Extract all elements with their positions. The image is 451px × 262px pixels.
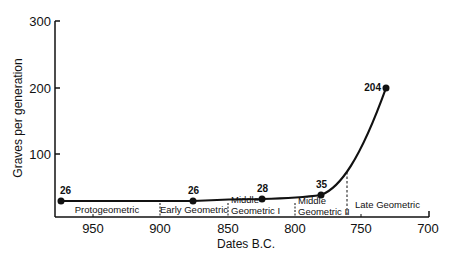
period-label-middle-geometric-2-line2: Geometric II: [298, 206, 350, 217]
x-tick-label-800: 800: [284, 221, 306, 236]
data-point-780: [318, 192, 325, 199]
data-point-825: [259, 196, 266, 203]
data-point-975: [58, 198, 65, 205]
point-label-975: 26: [60, 185, 72, 196]
period-label-early-geometric: Early Geometric: [160, 204, 228, 215]
y-tick-label-200: 200: [29, 81, 51, 96]
period-label-late-geometric: Late Geometric: [355, 199, 420, 210]
period-label-middle-geometric-1-line2: Geometric I: [231, 205, 280, 216]
x-tick-label-900: 900: [149, 221, 171, 236]
data-line: [61, 88, 386, 201]
data-point-730: [383, 85, 390, 92]
x-tick-label-850: 850: [217, 221, 239, 236]
y-tick-label-300: 300: [29, 14, 51, 29]
x-tick-label-950: 950: [82, 221, 104, 236]
point-label-730: 204: [364, 82, 381, 93]
point-label-875: 26: [188, 185, 200, 196]
x-axis-title: Dates B.C.: [217, 237, 275, 251]
point-label-825: 28: [257, 183, 269, 194]
point-label-780: 35: [316, 179, 328, 190]
y-axis-title: Graves per generation: [11, 58, 25, 177]
period-label-protogeometric: Protogeometric: [75, 204, 140, 215]
x-tick-label-700: 700: [417, 221, 439, 236]
data-point-875: [190, 198, 197, 205]
y-tick-label-100: 100: [29, 147, 51, 162]
x-tick-label-750: 750: [350, 221, 372, 236]
graves-chart: 300 200 100 Graves per generation 950 90…: [0, 0, 451, 262]
